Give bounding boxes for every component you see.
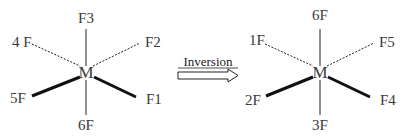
label-lower-left-left: 5F <box>10 90 26 106</box>
center-atom-right: M <box>312 63 327 82</box>
arrow-label: Inversion <box>183 54 233 69</box>
dashed-bond-upper-left <box>32 44 80 66</box>
label-bottom-left: 6F <box>78 117 94 133</box>
right-octahedron: M 6F 1F F5 2F F4 3F <box>245 7 396 133</box>
wedge-bond-lower-right <box>328 77 370 97</box>
label-upper-right-right: F5 <box>379 34 395 50</box>
dashed-bond-upper-right <box>93 43 140 66</box>
label-upper-left-right: 1F <box>249 32 265 48</box>
hollow-arrow-icon <box>178 69 238 82</box>
dashed-bond-upper-left <box>265 44 313 66</box>
label-upper-left-left: 4 F <box>12 34 32 50</box>
label-top-left: F3 <box>78 10 94 26</box>
left-octahedron: M F3 4 F F2 5F F1 6F <box>10 10 162 133</box>
center-atom-left: M <box>78 63 93 82</box>
inversion-arrow: Inversion <box>178 54 238 82</box>
label-upper-right-left: F2 <box>145 34 161 50</box>
wedge-bond-lower-right <box>94 77 136 97</box>
inversion-diagram: M F3 4 F F2 5F F1 6F Inversion M 6F 1F F… <box>0 0 412 137</box>
label-lower-right-right: F4 <box>380 92 396 108</box>
label-bottom-right: 3F <box>312 117 328 133</box>
dashed-bond-upper-right <box>327 43 374 66</box>
label-top-right: 6F <box>312 7 328 23</box>
wedge-bond-lower-left <box>32 77 80 96</box>
label-lower-left-right: 2F <box>245 92 261 108</box>
wedge-bond-lower-left <box>266 77 313 96</box>
label-lower-right-left: F1 <box>146 91 162 107</box>
